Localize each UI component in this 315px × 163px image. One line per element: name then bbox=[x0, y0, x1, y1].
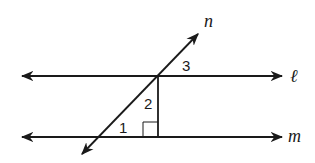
angle-label-2: 2 bbox=[144, 96, 152, 111]
label-l: ℓ bbox=[290, 67, 298, 85]
parallel-lines-diagram: n ℓ m 1 2 3 bbox=[0, 0, 315, 163]
right-angle-marker bbox=[143, 122, 158, 137]
label-m: m bbox=[288, 127, 301, 145]
label-n: n bbox=[204, 12, 213, 30]
line-n bbox=[82, 34, 198, 154]
angle-label-3: 3 bbox=[182, 58, 190, 73]
diagram-canvas bbox=[0, 0, 315, 163]
angle-label-1: 1 bbox=[119, 120, 127, 135]
